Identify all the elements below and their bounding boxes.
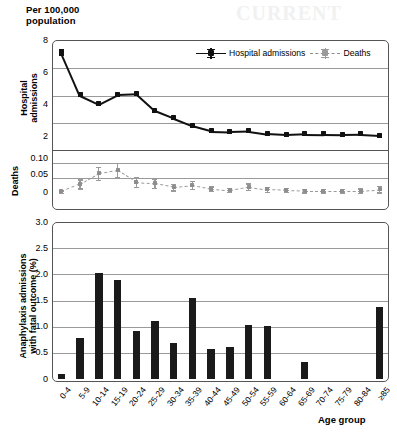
deaths-errorbar-cap: [134, 177, 139, 178]
gridline-hospital-6: [53, 68, 388, 69]
deaths-point: [303, 189, 307, 193]
hospital-admissions-point: [265, 131, 270, 136]
bar-15-19: [114, 280, 121, 379]
ytick-fatal-0: 0: [22, 375, 48, 384]
deaths-point: [209, 187, 213, 191]
hospital-admissions-point: [227, 129, 232, 134]
hospital-admissions-point: [78, 92, 83, 97]
ytick-fatal-30: 3.0: [22, 218, 48, 227]
deaths-errorbar-cap: [284, 192, 289, 193]
deaths-point: [116, 168, 120, 172]
deaths-point: [228, 188, 232, 192]
bar-25-29: [151, 321, 158, 379]
hospital-axis-title-line2: admissions: [29, 73, 39, 123]
gridline-fatal-0_5: [53, 353, 388, 354]
hospital-admissions-point: [302, 131, 307, 136]
deaths-errorbar-cap: [152, 179, 157, 180]
gridline-fatal-2: [53, 274, 388, 275]
units-line-2: population: [26, 15, 79, 26]
legend: Hospital admissions Deaths: [196, 48, 371, 58]
bar-30-34: [170, 343, 177, 379]
deaths-point: [59, 189, 63, 193]
deaths-point: [172, 185, 176, 189]
gridline-fatal-1: [53, 327, 388, 328]
bar-5-9: [76, 338, 83, 379]
deaths-errorbar-cap: [134, 187, 139, 188]
ytick-fatal-05: 0.5: [22, 348, 48, 357]
deaths-errorbar-cap: [209, 191, 214, 192]
ytick-deaths-010: 0.10: [18, 154, 48, 163]
bottom-panel-frame: [52, 222, 389, 382]
bar-10-14: [95, 273, 102, 379]
deaths-errorbar-cap: [96, 167, 101, 168]
page-bleed-through: CURRENT: [236, 2, 342, 25]
hospital-axis-title-line1: Hospital: [19, 80, 29, 116]
subplot-divider: [52, 150, 389, 151]
deaths-point: [340, 189, 344, 193]
ytick-fatal-25: 2.5: [22, 244, 48, 253]
legend-label-deaths: Deaths: [343, 48, 370, 58]
hospital-admissions-point: [321, 131, 326, 136]
ytick-hospital-8: 8: [26, 36, 48, 45]
deaths-errorbar-cap: [265, 192, 270, 193]
hospital-admissions-point: [284, 132, 289, 137]
hospital-admissions-point: [152, 108, 157, 113]
bar-35-39: [189, 298, 196, 379]
ytick-fatal-10: 1.0: [22, 322, 48, 331]
hospital-admissions-point: [358, 131, 363, 136]
deaths-errorbar-cap: [78, 179, 83, 180]
deaths-point: [78, 182, 82, 186]
top-panel-frame: [52, 40, 389, 210]
deaths-axis-title: Deaths: [10, 156, 20, 206]
bar-45-49: [226, 347, 233, 379]
deaths-errorbar-cap: [190, 189, 195, 190]
bar-40-44: [207, 349, 214, 379]
gridline-fatal-1_5: [53, 301, 388, 302]
deaths-errorbar-cap: [227, 192, 232, 193]
hospital-admissions-point: [340, 132, 345, 137]
ytick-deaths-005: 0.05: [18, 170, 48, 179]
bar-55-59: [264, 326, 271, 379]
deaths-point: [97, 171, 101, 175]
ytick-hospital-2: 2: [26, 132, 48, 141]
deaths-errorbar-cap: [115, 177, 120, 178]
bar-50-54: [245, 325, 252, 379]
deaths-errorbar-cap: [302, 192, 307, 193]
legend-item-deaths: Deaths: [310, 48, 370, 58]
ytick-hospital-4: 4: [26, 100, 48, 109]
deaths-errorbar-cap: [171, 190, 176, 191]
deaths-point: [359, 189, 363, 193]
hospital-admissions-point: [171, 115, 176, 120]
deaths-errorbar-cap: [377, 192, 382, 193]
deaths-point: [153, 181, 157, 185]
deaths-point: [190, 183, 194, 187]
deaths-point: [378, 187, 382, 191]
hospital-admissions-point: [246, 128, 251, 133]
gridline-deaths-0_1: [53, 163, 388, 164]
hospital-admissions-errorbar-cap: [59, 54, 64, 55]
deaths-errorbar-cap: [96, 180, 101, 181]
bar-20-24: [133, 331, 140, 379]
gridline-hospital-2: [53, 123, 388, 124]
gridline-hospital-4: [53, 96, 388, 97]
hospital-admissions-point: [134, 91, 139, 96]
deaths-errorbar-cap: [340, 192, 345, 193]
gridline-fatal-2_5: [53, 248, 388, 249]
hospital-admissions-point: [59, 49, 64, 54]
hospital-admissions-point: [209, 128, 214, 133]
hospital-admissions-point: [115, 92, 120, 97]
figure-root: CURRENT Per 100,000 population Hospital …: [0, 0, 397, 432]
ytick-hospital-6: 6: [26, 68, 48, 77]
deaths-point: [134, 180, 138, 184]
gridline-deaths-0_05: [53, 178, 388, 179]
deaths-errorbar-cap: [78, 188, 83, 189]
legend-item-hospital-admissions: Hospital admissions: [196, 48, 305, 58]
ytick-fatal-15: 1.5: [22, 296, 48, 305]
hospital-admissions-point: [190, 123, 195, 128]
ytick-fatal-20: 2.0: [22, 270, 48, 279]
legend-marker-deaths-icon: [310, 49, 340, 58]
bar-65-69: [301, 362, 308, 379]
deaths-point: [284, 188, 288, 192]
bar-0-4: [58, 374, 65, 379]
deaths-point: [321, 189, 325, 193]
